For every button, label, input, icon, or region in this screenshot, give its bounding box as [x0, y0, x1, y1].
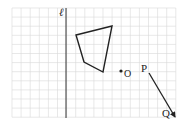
point-o-dot	[119, 69, 122, 72]
point-o-label: O	[124, 68, 131, 79]
line-l-label: ℓ	[59, 6, 64, 18]
point-q-label: Q	[162, 107, 170, 119]
grid	[12, 8, 176, 117]
point-p-label: P	[141, 62, 147, 74]
diagram-canvas: ℓ O P Q	[0, 0, 189, 130]
